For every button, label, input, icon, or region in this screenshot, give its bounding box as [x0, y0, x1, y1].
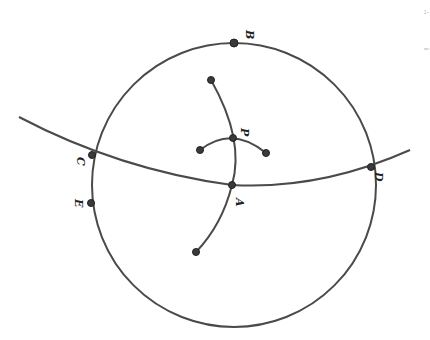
point-E: [88, 200, 95, 207]
point-A: [229, 182, 236, 189]
point-B: [230, 39, 238, 47]
point-C: [89, 152, 96, 159]
label-B: B: [243, 29, 256, 39]
left-small-arc-end-point: [197, 147, 204, 154]
top-arc-end-point: [208, 77, 215, 84]
edge-mark-top: ∴: [422, 10, 430, 15]
label-A: A: [233, 197, 246, 207]
label-E: E: [72, 198, 85, 208]
bottom-arc-end-point: [193, 249, 200, 256]
label-P: P: [238, 127, 251, 137]
label-C: C: [74, 157, 87, 166]
long-arc: [19, 117, 410, 186]
label-D: D: [372, 171, 385, 182]
point-D: [368, 164, 375, 171]
right-small-arc-end-point: [263, 150, 270, 157]
point-P: [230, 135, 237, 142]
edge-mark-lower: i: [422, 48, 430, 50]
geometry-diagram: A B C D E P ∴ i: [0, 0, 430, 340]
vertical-arc: [196, 80, 236, 252]
